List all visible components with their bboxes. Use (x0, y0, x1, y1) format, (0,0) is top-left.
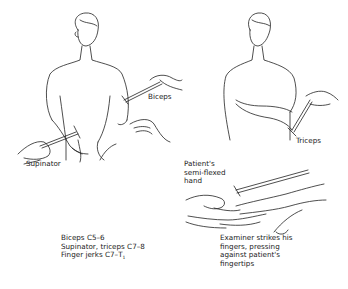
patient-figure-right (224, 13, 338, 140)
label-supinator: Supinator (26, 160, 61, 169)
patient-figure-left (46, 13, 128, 162)
label-patient-hand-line3: hand (184, 177, 226, 186)
examiner-hand-biceps (122, 75, 182, 142)
label-examiner-line4: fingertips (220, 260, 293, 269)
legend-finger-jerks: Finger jerks C7–T1 (61, 251, 145, 262)
label-patient-hand: Patient's semi-flexed hand (184, 160, 226, 186)
label-triceps: Triceps (296, 137, 321, 146)
label-examiner: Examiner strikes his fingers, pressing a… (220, 234, 293, 268)
root-levels-legend: Biceps C5–6 Supinator, triceps C7–8 Fing… (61, 234, 145, 262)
label-biceps: Biceps (148, 93, 172, 102)
